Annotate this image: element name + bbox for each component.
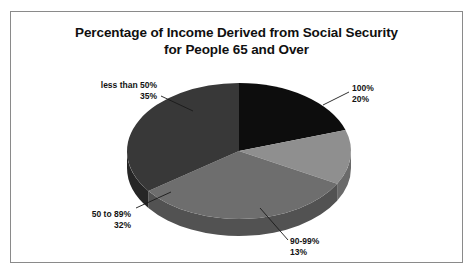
leader-line-100: [323, 92, 349, 105]
slice-label-50-to-89: 50 to 89% 32%: [55, 209, 131, 230]
slice-label-less-than-50: less than 50% 35%: [79, 80, 157, 101]
chart-frame: Percentage of Income Derived from Social…: [10, 11, 463, 263]
slice-label-90-99: 90-99% 13%: [290, 236, 368, 257]
pie-chart: less than 50% 35% 100% 20% 50 to 89% 32%…: [11, 12, 464, 264]
slice-label-100: 100% 20%: [352, 83, 422, 104]
pie-top-face: [127, 83, 351, 219]
